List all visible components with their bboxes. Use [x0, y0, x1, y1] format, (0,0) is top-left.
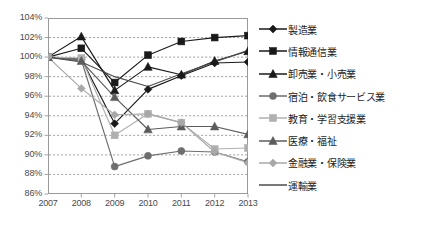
- data-point-marker: [244, 58, 252, 66]
- legend-marker-triangle-icon: [258, 134, 288, 148]
- y-axis-tick-label: 86%: [0, 188, 42, 198]
- legend-label: 医療・福祉: [288, 133, 337, 148]
- legend-marker-diamond-icon: [258, 156, 288, 170]
- legend-item[interactable]: 医療・福祉: [258, 129, 443, 151]
- data-point-marker: [269, 25, 277, 33]
- data-point-marker: [144, 62, 152, 70]
- data-point-marker: [270, 48, 277, 55]
- data-point-marker: [111, 132, 118, 139]
- data-point-marker: [145, 152, 152, 159]
- y-axis-tick-label: 96%: [0, 90, 42, 100]
- y-axis-tick-label: 104%: [0, 12, 42, 22]
- y-axis-tick-label: 94%: [0, 110, 42, 120]
- data-point-marker: [111, 163, 118, 170]
- legend-label: 教育・学習支援業: [288, 111, 366, 126]
- legend-item[interactable]: 情報通信業: [258, 40, 443, 62]
- data-point-marker: [78, 45, 85, 52]
- y-axis-tick-label: 98%: [0, 71, 42, 81]
- legend-marker-none-icon: [258, 178, 288, 192]
- data-point-marker: [270, 115, 277, 122]
- x-axis-tick-label: 2011: [164, 198, 198, 208]
- y-axis-tick-label: 102%: [0, 32, 42, 42]
- data-point-marker: [269, 159, 277, 167]
- data-point-marker: [245, 145, 252, 152]
- chart-container: 104%102%100%98%96%94%92%90%88%86% 200720…: [0, 0, 445, 232]
- x-axis-tick-label: 2010: [131, 198, 165, 208]
- legend-item[interactable]: 卸売業・小売業: [258, 63, 443, 85]
- x-axis-tick-label: 2013: [231, 198, 265, 208]
- legend-marker-square-icon: [258, 111, 288, 125]
- legend-item[interactable]: 運輸業: [258, 174, 443, 196]
- legend-label: 運輸業: [288, 178, 317, 193]
- y-axis-tick-label: 88%: [0, 168, 42, 178]
- legend-marker-circle-icon: [258, 89, 288, 103]
- legend-item[interactable]: 製造業: [258, 18, 443, 40]
- data-point-marker: [211, 34, 218, 41]
- y-axis-tick-label: 90%: [0, 149, 42, 159]
- data-point-marker: [77, 32, 85, 40]
- legend-marker-diamond-icon: [258, 22, 288, 36]
- x-axis-tick-label: 2008: [64, 198, 98, 208]
- legend-marker-square-icon: [258, 44, 288, 58]
- legend-label: 宿泊・飲食サービス業: [288, 89, 385, 104]
- data-point-marker: [245, 32, 252, 39]
- data-point-marker: [178, 38, 185, 45]
- series-layer: [44, 32, 252, 170]
- x-axis-tick-label: 2009: [98, 198, 132, 208]
- legend-label: 情報通信業: [288, 44, 337, 59]
- legend-label: 卸売業・小売業: [288, 66, 356, 81]
- legend-label: 製造業: [288, 22, 317, 37]
- data-point-marker: [145, 52, 152, 59]
- legend-item[interactable]: 金融業・保険業: [258, 152, 443, 174]
- y-axis-tick-label: 100%: [0, 51, 42, 61]
- x-axis-tick-label: 2012: [198, 198, 232, 208]
- x-axis-tick-label: 2007: [31, 198, 65, 208]
- legend-label: 金融業・保険業: [288, 155, 356, 170]
- legend-marker-triangle-icon: [258, 67, 288, 81]
- chart-legend: 製造業情報通信業卸売業・小売業宿泊・飲食サービス業教育・学習支援業医療・福祉金融…: [258, 18, 443, 196]
- legend-item[interactable]: 宿泊・飲食サービス業: [258, 85, 443, 107]
- legend-item[interactable]: 教育・学習支援業: [258, 107, 443, 129]
- data-point-marker: [111, 79, 118, 86]
- data-point-marker: [270, 93, 277, 100]
- data-point-marker: [178, 147, 185, 154]
- y-axis-tick-label: 92%: [0, 129, 42, 139]
